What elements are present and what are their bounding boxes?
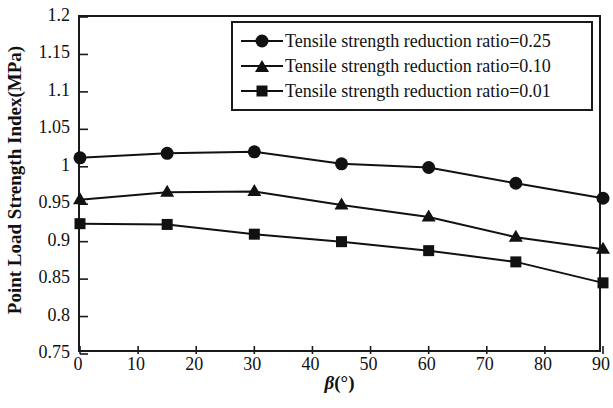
- data-point: [597, 192, 610, 205]
- circle-marker-icon: [239, 31, 285, 51]
- degree-unit: (°): [334, 372, 354, 393]
- legend-item-2: Tensile strength reduction ratio=0.01: [239, 78, 585, 103]
- x-tick-label: 20: [174, 355, 214, 373]
- y-axis-title: Point Load Strength Index(MPa): [2, 4, 28, 356]
- square-marker-icon: [239, 81, 285, 101]
- data-point: [422, 161, 435, 174]
- x-tick-label: 70: [465, 355, 505, 373]
- legend-label-0: Tensile strength reduction ratio=0.25: [285, 31, 551, 51]
- data-point: [598, 277, 609, 288]
- data-point: [247, 184, 261, 196]
- x-tick-label: 90: [581, 355, 613, 373]
- legend-item-1: Tensile strength reduction ratio=0.10: [239, 53, 585, 78]
- legend-item-0: Tensile strength reduction ratio=0.25: [239, 28, 585, 53]
- data-point: [335, 157, 348, 170]
- legend-label-1: Tensile strength reduction ratio=0.10: [285, 56, 551, 76]
- data-point: [75, 218, 86, 229]
- data-point: [509, 177, 522, 190]
- x-tick-label: 10: [116, 355, 156, 373]
- chart-legend: Tensile strength reduction ratio=0.25 Te…: [231, 21, 593, 111]
- x-tick-label: 60: [407, 355, 447, 373]
- x-tick-label: 50: [349, 355, 389, 373]
- data-point: [423, 245, 434, 256]
- data-point: [73, 192, 87, 204]
- triangle-marker-icon: [239, 56, 285, 76]
- data-point: [160, 185, 174, 197]
- data-point: [510, 256, 521, 267]
- data-point: [336, 236, 347, 247]
- data-point: [161, 147, 174, 160]
- x-tick-label: 40: [290, 355, 330, 373]
- data-point: [249, 229, 260, 240]
- x-tick-label: 30: [232, 355, 272, 373]
- data-point: [162, 219, 173, 230]
- data-point: [74, 151, 87, 164]
- point-load-strength-chart: Point Load Strength Index(MPa) 0.750.80.…: [0, 0, 613, 408]
- beta-symbol: β: [325, 372, 335, 393]
- x-axis-title: β(°): [78, 372, 601, 394]
- x-tick-label: 80: [523, 355, 563, 373]
- legend-label-2: Tensile strength reduction ratio=0.01: [285, 81, 551, 101]
- data-point: [248, 145, 261, 158]
- series-line-2: [80, 224, 603, 283]
- x-tick-label: 0: [58, 355, 98, 373]
